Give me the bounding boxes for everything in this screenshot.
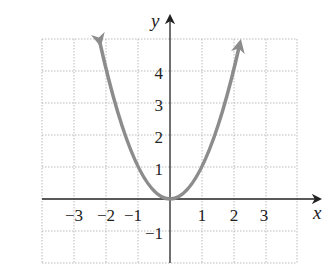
y-tick: 2 [155,128,164,147]
x-axis-label: x [312,202,322,223]
x-tick: −1 [124,206,142,225]
parabola-chart: −3 −2 −1 1 2 3 −1 1 2 3 4 x y [0,0,335,274]
x-tick-labels: −3 −2 −1 1 2 3 [65,206,268,225]
y-tick: −1 [145,224,163,243]
y-tick: 3 [155,96,164,115]
x-tick: 1 [198,206,207,225]
axes [42,16,320,263]
x-tick: −3 [65,206,83,225]
y-tick: 1 [155,160,164,179]
x-tick: 3 [260,206,269,225]
y-axis-label: y [149,10,160,31]
x-tick: −2 [97,206,115,225]
y-tick: 4 [155,64,164,83]
y-tick-labels: −1 1 2 3 4 [145,64,164,243]
x-tick: 2 [230,206,239,225]
